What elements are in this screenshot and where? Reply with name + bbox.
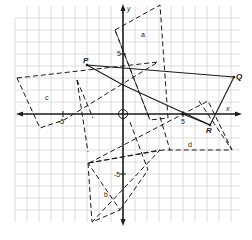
region-d-label: d [188, 141, 192, 148]
y-axis-arrow-down [121, 219, 126, 226]
figure-b-edge [88, 163, 92, 222]
figure-b-edge-2 [130, 122, 148, 170]
x-axis-label: x [226, 105, 230, 112]
region-a-label: a [141, 31, 145, 38]
x-tick-neg5: -5 [58, 118, 64, 125]
vertex-dots [86, 64, 236, 127]
y-tick-5: 5 [117, 50, 121, 57]
x-axis-arrow-left [16, 112, 23, 117]
coordinate-plane-svg [0, 0, 252, 240]
figure-b-edge-3 [120, 170, 148, 210]
y-tick-neg5: -5 [114, 171, 120, 178]
point-q-label: Q [236, 73, 242, 81]
region-c-label: c [45, 94, 49, 101]
coordinate-diagram: y x 5 -5 5 -5 P Q R a b c d [0, 0, 252, 240]
region-b-label: b [104, 191, 108, 198]
y-axis-arrow-up [121, 4, 126, 11]
y-axis-label: y [127, 5, 131, 12]
x-tick-5: 5 [181, 118, 185, 125]
figure-c [17, 62, 158, 128]
point-p-label: P [83, 57, 88, 65]
point-r-label: R [206, 127, 212, 135]
x-axis-arrow-right [235, 112, 242, 117]
figure-c-edge [77, 80, 88, 152]
triangle-pqr [87, 65, 234, 125]
